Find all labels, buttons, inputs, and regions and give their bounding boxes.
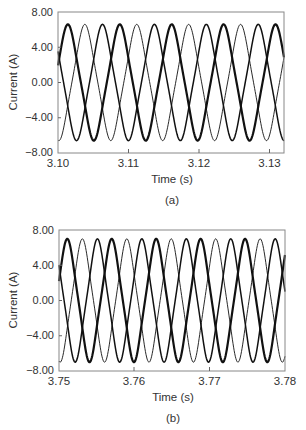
x-tick-label: 3.75	[48, 375, 70, 387]
axes-frame-a	[58, 12, 284, 153]
waveform-line	[58, 24, 284, 140]
waveform-line	[58, 24, 284, 140]
x-tick-label: 3.76	[123, 375, 145, 387]
waveforms-a	[58, 24, 284, 140]
x-tick-label: 3.78	[274, 375, 296, 387]
y-axis-title: Current (A)	[7, 271, 19, 328]
x-axis-b: 3.75 3.76 3.77 3.78 Time (s)	[48, 367, 296, 403]
x-tick-label: 3.10	[47, 157, 69, 169]
chart-b-svg: 8.00 4.00 0.00 −4.00 −8.00 Current (A) 3…	[0, 215, 306, 430]
y-axis-title: Current (A)	[7, 53, 19, 110]
x-tick-label: 3.12	[188, 157, 210, 169]
panel-caption-b: (b)	[166, 412, 180, 424]
y-tick-label: 8.00	[33, 224, 54, 236]
chart-panel-a: 8.00 4.00 0.00 −4.00 −8.00 Current (A) 3…	[0, 0, 306, 215]
y-tick-label: 8.00	[32, 6, 53, 18]
panel-caption-a: (a)	[165, 194, 179, 206]
x-tick-label: 3.77	[198, 375, 220, 387]
y-tick-label: 0.00	[33, 294, 54, 306]
y-tick-label: −4.00	[25, 111, 53, 123]
x-axis-title: Time (s)	[151, 173, 193, 185]
x-tick-label: 3.11	[118, 157, 140, 169]
plot-area-a	[58, 12, 284, 153]
x-tick-label: 3.13	[258, 157, 280, 169]
chart-a-svg: 8.00 4.00 0.00 −4.00 −8.00 Current (A) 3…	[0, 0, 306, 215]
waveform-line	[58, 24, 284, 140]
x-axis-title: Time (s)	[152, 391, 194, 403]
y-tick-label: 4.00	[33, 259, 54, 271]
y-axis-a: 8.00 4.00 0.00 −4.00 −8.00 Current (A)	[7, 6, 61, 158]
y-tick-label: −4.00	[26, 329, 54, 341]
plot-area-b	[59, 230, 285, 371]
waveforms-b	[59, 239, 285, 362]
y-tick-label: 4.00	[32, 41, 53, 53]
waveform-line	[59, 239, 285, 362]
chart-panel-b: 8.00 4.00 0.00 −4.00 −8.00 Current (A) 3…	[0, 215, 306, 430]
x-axis-a: 3.10 3.11 3.12 3.13 Time (s)	[47, 149, 281, 185]
y-tick-label: 0.00	[32, 76, 53, 88]
y-axis-b: 8.00 4.00 0.00 −4.00 −8.00 Current (A)	[7, 224, 62, 376]
